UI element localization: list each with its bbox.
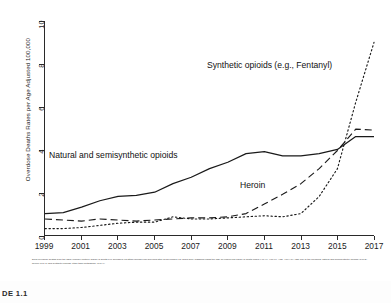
x-tick-mark [154, 236, 155, 240]
x-tick-label: 2003 [108, 241, 127, 251]
x-tick-label: 2005 [145, 241, 164, 251]
series-label-heroin: Heroin [240, 180, 265, 190]
figure-container: Overdose Deaths Rates per Age Adjusted 1… [0, 0, 391, 303]
x-tick-label: 2009 [218, 241, 237, 251]
x-tick-label: 2017 [365, 241, 384, 251]
plot-lines [45, 21, 374, 235]
x-tick-label: 2001 [71, 241, 90, 251]
series-label-synthetic-opioids: Synthetic opioids (e.g., Fentanyl) [207, 60, 332, 70]
x-tick-label: 2015 [328, 241, 347, 251]
exhibit-tag: DE 1.1 [2, 289, 28, 298]
x-tick-label: 2013 [291, 241, 310, 251]
x-tick-mark [301, 236, 302, 240]
x-tick-mark [337, 236, 338, 240]
series-label-natural-semisynthetic-opioids: Natural and semisynthetic opioids [49, 150, 178, 160]
x-tick-mark [227, 236, 228, 240]
plot-area [44, 21, 374, 236]
x-tick-mark [191, 236, 192, 240]
x-tick-mark [81, 236, 82, 240]
x-tick-mark [44, 236, 45, 240]
series-line-natural-and-semisynthetic-opioids [45, 137, 374, 214]
series-line-heroin [45, 129, 374, 221]
x-tick-mark [117, 236, 118, 240]
series-line-synthetic-opioids-e-g-fentanyl [45, 42, 374, 228]
x-tick-label: 2007 [181, 241, 200, 251]
x-tick-mark [374, 236, 375, 240]
x-tick-label: 1999 [35, 241, 54, 251]
y-axis-title: Overdose Deaths Rates per Age Adjusted 1… [24, 5, 31, 215]
x-tick-mark [264, 236, 265, 240]
chart-card: Overdose Deaths Rates per Age Adjusted 1… [0, 0, 391, 281]
chart-footnote: Drug overdose deaths from the CDC Wonder… [32, 258, 372, 265]
x-tick-label: 2011 [255, 241, 273, 251]
